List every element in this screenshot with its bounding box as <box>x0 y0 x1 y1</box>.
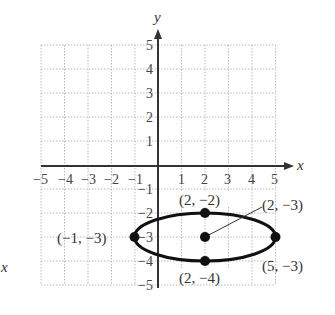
y-tick: 4 <box>146 62 153 77</box>
x-tick: 3 <box>224 172 231 187</box>
y-tick: −3 <box>138 230 153 245</box>
x-tick: −5 <box>33 172 48 187</box>
label-bottom: (2, −4) <box>179 270 220 287</box>
ellipse-graph: x y −5 −4 −3 −2 −1 1 2 3 4 5 5 4 3 2 1 −… <box>0 0 335 315</box>
x-tick: −4 <box>58 172 73 187</box>
y-axis-label: y <box>152 9 161 25</box>
y-tick: −4 <box>138 254 153 269</box>
leader-line <box>205 207 262 237</box>
x-tick: 4 <box>248 172 255 187</box>
x-axis-label: x <box>296 157 304 173</box>
x-tick: 5 <box>271 172 278 187</box>
y-tick: 3 <box>146 86 153 101</box>
y-tick: −1 <box>138 182 153 197</box>
point-center <box>200 232 210 242</box>
x-tick-labels: −5 −4 −3 −2 −1 1 2 3 4 5 <box>33 172 278 187</box>
x-tick: −2 <box>104 172 119 187</box>
point-bottom <box>200 256 210 266</box>
x-tick: 2 <box>201 172 208 187</box>
y-tick: 2 <box>146 110 153 125</box>
label-center: (2, −3) <box>262 197 303 214</box>
x-tick: 1 <box>178 172 185 187</box>
point-left <box>130 232 140 242</box>
axes <box>41 29 294 288</box>
point-top <box>200 208 210 218</box>
label-right: (5, −3) <box>262 258 303 275</box>
point-right <box>271 232 281 242</box>
x-tick: −3 <box>81 172 96 187</box>
x-axis-arrow-icon <box>284 162 294 170</box>
label-left: (−1, −3) <box>57 230 106 247</box>
y-tick: −2 <box>138 206 153 221</box>
y-tick: 5 <box>146 38 153 53</box>
label-top: (2, −2) <box>179 192 220 209</box>
y-axis-arrow-icon <box>154 29 162 39</box>
stray-x-label: x <box>0 259 8 275</box>
y-tick: 1 <box>146 134 153 149</box>
y-tick: −5 <box>138 278 153 293</box>
